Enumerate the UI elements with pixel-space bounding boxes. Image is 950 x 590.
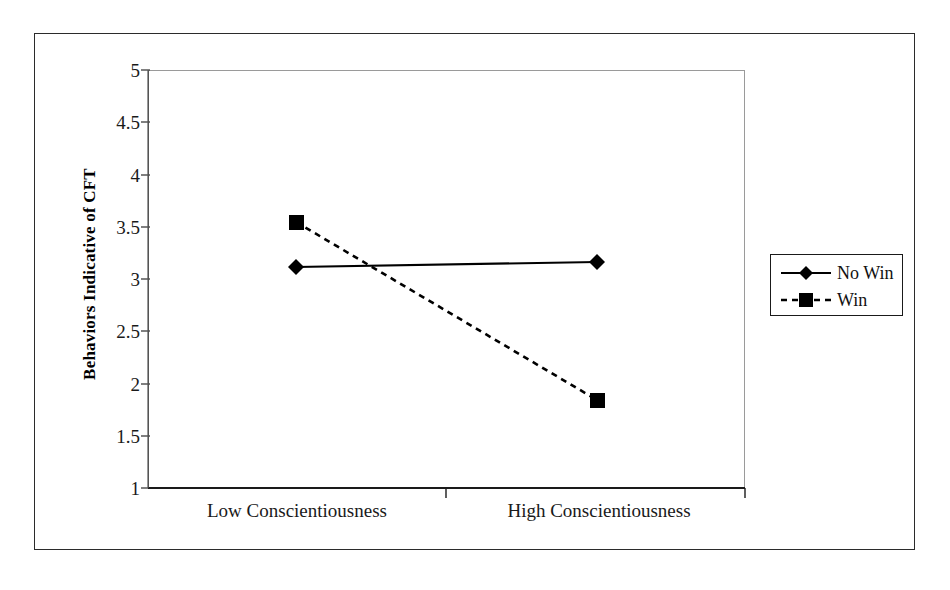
legend-sample-win xyxy=(779,287,833,313)
figure-container: 5 4.5 4 3.5 3 2.5 2 1.5 1 Behaviors Indi… xyxy=(0,0,950,590)
legend-label-no-win: No Win xyxy=(837,262,893,284)
series-no-win-marker-0 xyxy=(288,259,304,275)
legend-box: No Win Win xyxy=(770,254,903,316)
series-no-win-marker-1 xyxy=(589,254,605,270)
series-win-line xyxy=(296,222,597,400)
x-axis-ticks xyxy=(446,488,745,498)
legend-sample-no-win xyxy=(779,260,833,286)
series-win xyxy=(289,215,605,408)
series-win-marker-0 xyxy=(289,215,304,230)
series-no-win xyxy=(288,254,605,275)
series-no-win-line xyxy=(296,262,597,267)
legend-label-win: Win xyxy=(837,289,867,311)
legend-entry-no-win: No Win xyxy=(771,260,904,286)
series-win-marker-1 xyxy=(590,393,605,408)
legend-entry-win: Win xyxy=(771,287,904,313)
y-axis-ticks xyxy=(141,70,150,488)
